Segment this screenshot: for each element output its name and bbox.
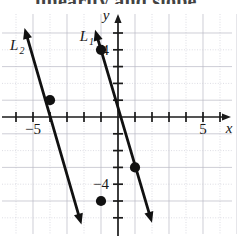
series-label-subscript: 2	[19, 45, 24, 56]
line-1-arrowhead-bottom	[144, 211, 153, 223]
series-label-1: L1	[79, 28, 94, 48]
data-point	[130, 162, 140, 172]
line-2-arrowhead-top	[23, 28, 32, 40]
plotted-lines-layer	[23, 28, 153, 225]
x-tick-label: −5	[25, 121, 41, 137]
y-tick-label: −4	[93, 176, 109, 192]
y-axis-arrowhead	[114, 14, 121, 23]
y-tick-label: 4	[102, 42, 110, 58]
series-label-subscript: 1	[89, 36, 94, 47]
series-label-letter: L	[79, 28, 88, 44]
x-tick-label: 5	[199, 121, 207, 137]
data-point	[45, 95, 55, 105]
data-point	[96, 196, 106, 206]
coordinate-plane-svg: L1L2−554−4xy	[0, 0, 237, 236]
series-label-2: L2	[9, 37, 24, 57]
clipped-heading-text: linearity and slope.	[0, 0, 237, 4]
graph-figure: linearity and slope. L1L2−554−4xy	[0, 0, 237, 236]
y-axis-label: y	[101, 7, 110, 23]
series-label-letter: L	[9, 37, 18, 53]
line-2-arrowhead-bottom	[74, 213, 83, 225]
x-axis-label: x	[225, 120, 233, 136]
